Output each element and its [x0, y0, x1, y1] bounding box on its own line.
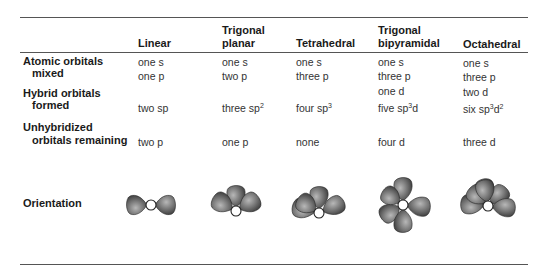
column-header-tetrahedral: Tetrahedral	[296, 37, 355, 49]
cell-octahedral: three p	[463, 71, 496, 83]
row-label: Orientation	[23, 197, 82, 209]
cell-trigonal-planar: one p	[222, 136, 248, 148]
linear-orbital-diagram	[111, 165, 191, 245]
tetrahedral-orbital-diagram	[279, 173, 359, 253]
row-label: Hybrid orbitals	[23, 87, 101, 99]
orbital-lobe	[406, 196, 431, 217]
hybrid-superscript: 2	[260, 102, 264, 109]
nucleus-circle	[483, 201, 493, 211]
cell-trigonal-bipyramidal: five sp3d	[378, 102, 418, 114]
column-header-line: planar	[222, 37, 255, 49]
column-header-line: Trigonal	[222, 24, 265, 36]
column-header-line: bipyramidal	[378, 37, 440, 49]
column-header-linear: Linear	[138, 37, 171, 49]
nucleus-circle	[314, 208, 324, 218]
top-rule	[20, 17, 528, 18]
header-rule	[20, 52, 528, 53]
column-header-line: Trigonal	[378, 24, 421, 36]
hybrid-count-base: two sp	[138, 102, 168, 114]
cell-tetrahedral: four sp3	[296, 102, 332, 114]
hybrid-count-base: three sp	[222, 102, 260, 114]
cell-trigonal-bipyramidal: three p	[378, 70, 411, 82]
cell-linear: two sp	[138, 102, 168, 114]
row-label: Atomic orbitals	[23, 55, 103, 67]
trigonal-planar-orbital-diagram	[196, 171, 276, 251]
column-header-octahedral: Octahedral	[463, 38, 520, 50]
row-label: orbitals remaining	[32, 134, 127, 146]
cell-trigonal-planar: one s	[222, 56, 248, 68]
nucleus-circle	[398, 200, 408, 210]
trigonal-bipyramidal-orbital-diagram	[363, 165, 443, 245]
hybrid-superscript: 2	[500, 103, 504, 110]
cell-linear: one p	[138, 70, 164, 82]
cell-linear: two p	[138, 136, 163, 148]
bottom-rule	[20, 264, 528, 265]
octahedral-orbital-diagram	[448, 166, 528, 246]
cell-octahedral: one s	[463, 57, 489, 69]
cell-tetrahedral: three p	[296, 70, 329, 82]
hybrid-superscript: 3	[328, 102, 332, 109]
hybrid-count-base: five sp	[378, 102, 408, 114]
nucleus-circle	[146, 200, 156, 210]
nucleus-circle	[231, 206, 241, 216]
cell-octahedral: six sp3d2	[463, 103, 504, 115]
orbital-lobe	[126, 195, 147, 214]
orbital-lobe	[155, 195, 176, 214]
hybrid-d: d	[412, 102, 418, 114]
cell-trigonal-bipyramidal: one s	[378, 56, 404, 68]
hybrid-count-base: four sp	[296, 102, 328, 114]
cell-octahedral: two d	[463, 86, 488, 98]
row-label: mixed	[32, 67, 64, 79]
cell-trigonal-planar: three sp2	[222, 102, 264, 114]
hybrid-count-base: six sp	[463, 103, 490, 115]
cell-tetrahedral: none	[296, 136, 319, 148]
row-label: formed	[32, 99, 69, 111]
row-label: Unhybridized	[23, 121, 93, 133]
cell-octahedral: three d	[463, 136, 496, 148]
cell-tetrahedral: one s	[296, 56, 322, 68]
cell-trigonal-planar: two p	[222, 70, 247, 82]
cell-trigonal-bipyramidal: one d	[378, 85, 404, 97]
cell-trigonal-bipyramidal: four d	[378, 136, 405, 148]
cell-linear: one s	[138, 56, 164, 68]
